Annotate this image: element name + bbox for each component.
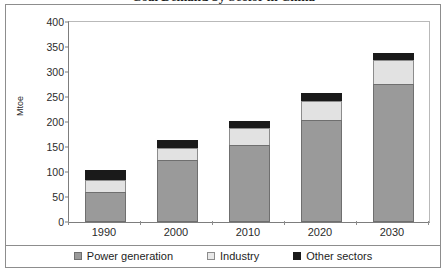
y-tick-label: 400 [46,16,64,28]
bar-segment-industry [85,180,126,192]
x-tick-label: 2020 [300,226,341,238]
bar-segment-power-generation [85,192,126,222]
bar-segment-power-generation [157,160,198,222]
bar-segment-other-sectors [373,53,414,60]
bar-segment-other-sectors [229,121,270,128]
bar-segment-other-sectors [85,170,126,181]
bar-segment-other-sectors [301,93,342,101]
bar-segment-power-generation [301,120,342,223]
legend-divider [6,245,440,246]
bar-segment-industry [157,148,198,160]
bar-segment-industry [373,60,414,84]
y-tick-label: 150 [46,141,64,153]
bar-column [373,22,414,222]
x-tick-mark [284,221,285,225]
y-tick-label: 200 [46,116,64,128]
bar-segment-other-sectors [157,140,198,149]
power-swatch [74,252,82,260]
chart-legend: Power generationIndustryOther sectors [6,250,440,262]
bar-column [301,22,342,222]
y-tick-label: 100 [46,166,64,178]
plot-area: 050100150200250300350400 [68,21,430,223]
x-tick-mark [356,221,357,225]
x-tick-label: 2000 [156,226,197,238]
bar-segment-power-generation [229,145,270,222]
legend-item[interactable]: Other sectors [293,250,372,262]
bar-segment-power-generation [373,84,414,223]
legend-item[interactable]: Power generation [74,250,173,262]
legend-item-label: Power generation [87,250,173,262]
x-tick-label: 2030 [372,226,413,238]
bar-column [85,22,126,222]
x-tick-mark [212,221,213,225]
legend-item-label: Industry [220,250,259,262]
bar-segment-industry [229,128,270,145]
bar-column [157,22,198,222]
other-swatch [293,252,301,260]
x-tick-mark [428,221,429,225]
industry-swatch [207,252,215,260]
legend-item[interactable]: Industry [207,250,259,262]
chart-figure-frame: Mtoe 050100150200250300350400 1990200020… [5,4,441,268]
x-tick-mark [68,221,69,225]
x-tick-mark [140,221,141,225]
legend-item-label: Other sectors [306,250,372,262]
y-tick-label: 300 [46,66,64,78]
y-tick-label: 250 [46,91,64,103]
x-tick-label: 1990 [84,226,125,238]
y-axis-title: Mtoe [15,100,25,116]
y-tick-label: 350 [46,41,64,53]
x-axis-labels: 19902000201020202030 [68,226,428,238]
bar-column [229,22,270,222]
x-tick-label: 2010 [228,226,269,238]
y-tick-label: 0 [58,216,64,228]
bar-segment-industry [301,101,342,120]
y-tick-label: 50 [52,191,64,203]
bar-series-group [69,22,429,222]
